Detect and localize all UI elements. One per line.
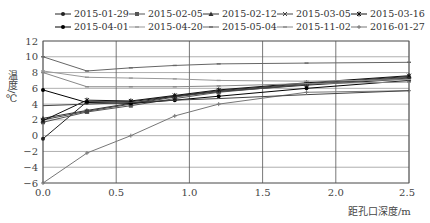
y-tick-label: 2 xyxy=(32,114,38,125)
x-tick-label: 2.5 xyxy=(399,187,415,198)
y-tick-label: 10 xyxy=(25,51,38,62)
y-tick-label: 6 xyxy=(32,83,38,94)
series-line xyxy=(41,57,411,71)
x-tick-label: 0.5 xyxy=(108,187,124,198)
y-tick-label: 12 xyxy=(25,36,38,47)
y-tick-label: −2 xyxy=(23,146,38,157)
y-tick-label: 0 xyxy=(32,130,38,141)
x-tick-label: 1.0 xyxy=(181,187,197,198)
y-axis-label: 温度/℃ xyxy=(4,70,19,104)
line-chart: 121086420−2−4−60.00.51.01.52.02.5 xyxy=(0,0,430,223)
y-tick-label: −4 xyxy=(23,162,38,173)
y-tick-label: 8 xyxy=(32,67,38,78)
x-axis-label: 距孔口深度/m xyxy=(348,203,411,218)
x-tick-label: 1.5 xyxy=(255,187,271,198)
x-tick-label: 2.0 xyxy=(328,187,344,198)
x-tick-label: 0.0 xyxy=(35,187,51,198)
y-tick-label: 4 xyxy=(32,99,38,110)
